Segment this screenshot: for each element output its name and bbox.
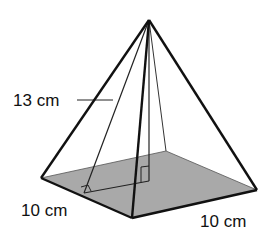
back-lateral-edge [149,20,166,151]
base-left-edge-label: 10 cm [21,202,67,219]
square-pyramid-diagram: 13 cm 10 cm 10 cm [0,0,275,239]
slant-height-label: 13 cm [13,92,59,109]
base-right-edge-label: 10 cm [200,213,246,230]
